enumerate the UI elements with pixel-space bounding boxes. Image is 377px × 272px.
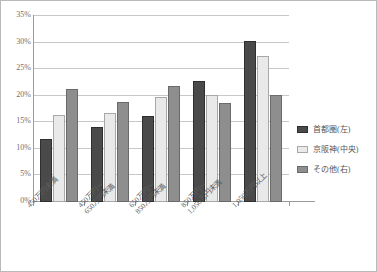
bar xyxy=(168,86,180,202)
x-axis-category-labels: 450万円未満450万円〜650万円未満650万円〜850万円未満850万円〜1… xyxy=(33,203,333,272)
legend-item-label: 首都圏(左) xyxy=(313,125,350,134)
y-axis-tick-label: 20% xyxy=(3,91,31,99)
bar xyxy=(66,89,78,202)
bar-groups xyxy=(33,15,289,202)
legend-item[interactable]: 首都圏(左) xyxy=(297,119,375,139)
chart-legend: 首都圏(左)京阪神(中央)その他(右) xyxy=(297,119,375,179)
bar xyxy=(219,103,231,202)
bar xyxy=(117,102,129,202)
y-axis-tick-label: 30% xyxy=(3,38,31,46)
dark-swatch-icon xyxy=(297,126,308,133)
bar-group xyxy=(142,16,180,202)
legend-item-label: 京阪神(中央) xyxy=(313,145,358,154)
y-axis-tick-label: 35% xyxy=(3,11,31,19)
bar xyxy=(270,95,282,202)
light-swatch-icon xyxy=(297,146,308,153)
x-axis-extension-line xyxy=(289,201,315,202)
bar-group xyxy=(91,16,129,202)
y-axis-tick-label: 25% xyxy=(3,64,31,72)
bar-chart: 0%5%10%15%20%25%30%35% 450万円未満450万円〜650万… xyxy=(0,0,377,272)
y-axis-tick-label: 5% xyxy=(3,170,31,178)
legend-item[interactable]: その他(右) xyxy=(297,159,375,179)
medium-swatch-icon xyxy=(297,166,308,173)
y-axis-tick-label: 15% xyxy=(3,117,31,125)
legend-item[interactable]: 京阪神(中央) xyxy=(297,139,375,159)
bar-group xyxy=(40,16,78,202)
legend-item-label: その他(右) xyxy=(313,165,350,174)
y-axis-tick-labels: 0%5%10%15%20%25%30%35% xyxy=(1,15,31,202)
y-axis-tick-label: 10% xyxy=(3,144,31,152)
chart-title xyxy=(1,0,377,7)
bar xyxy=(53,115,65,202)
